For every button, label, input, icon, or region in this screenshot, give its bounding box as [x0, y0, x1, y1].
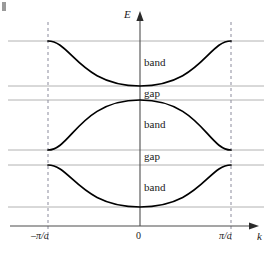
x-axis-label: k [257, 231, 262, 242]
x-tick-label-minus-pi-over-a: –π/a [31, 231, 49, 241]
region-label-gap-lower: gap [144, 151, 160, 162]
x-axis-arrowhead [249, 222, 259, 229]
x-tick-label-origin: 0 [136, 231, 141, 241]
y-axis-arrowhead [136, 11, 143, 21]
band-diagram-canvas [0, 0, 272, 256]
y-axis-label: E [124, 9, 131, 20]
region-label-band-middle: band [144, 119, 165, 130]
region-label-band-top: band [144, 57, 165, 68]
band-structure-figure: E k –π/a 0 π/a band gap band gap band [0, 0, 272, 256]
x-tick-label-pi-over-a: π/a [219, 231, 232, 241]
region-label-gap-upper: gap [144, 88, 160, 99]
gridlines [8, 41, 264, 207]
region-label-band-bottom: band [144, 182, 165, 193]
